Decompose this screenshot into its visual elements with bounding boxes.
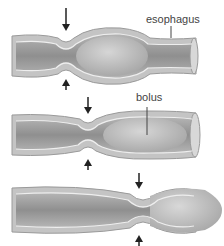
peristalsis-stage-3 [0, 160, 224, 246]
peristalsis-stage-2: bolus [0, 85, 224, 170]
constriction-arrow-down [62, 8, 70, 31]
esophagus-tube-stage-2 [0, 85, 224, 170]
bolus-shape [103, 117, 187, 153]
constriction-arrow-down [135, 173, 143, 189]
esophagus-tube-stage-3 [0, 160, 224, 246]
bolus-label: bolus [136, 92, 162, 103]
bolus-shape [76, 36, 148, 76]
constriction-arrow-down [84, 97, 92, 114]
peristalsis-stage-1: esophagus [0, 0, 224, 90]
constriction-arrow-up [135, 235, 143, 246]
esophagus-label: esophagus [146, 14, 200, 25]
